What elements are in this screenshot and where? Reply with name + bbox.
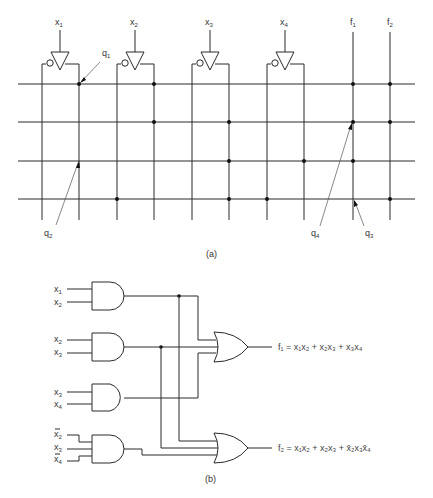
output-label-f2: f2 xyxy=(387,17,394,28)
annotation-q1: q1 xyxy=(80,48,111,83)
output-f1: f1 xyxy=(350,17,357,220)
caption-a: (a) xyxy=(206,249,217,259)
output-f2: f2 xyxy=(387,17,394,220)
buffer-icon xyxy=(51,52,69,70)
and-gate-icon xyxy=(92,384,120,411)
svg-text:q2: q2 xyxy=(44,228,53,239)
output-label-f1: f1 xyxy=(350,17,357,28)
and-gate-2: x2 x3 xyxy=(54,333,124,361)
or-gate-f2: f₂ = x₁x₂ + x₂x₃ + x̄₂x₃x̄₄ xyxy=(214,433,371,463)
input-x2: x2 xyxy=(117,17,154,220)
svg-text:x4: x4 xyxy=(54,399,63,410)
input-x4: x4 xyxy=(267,17,304,220)
svg-text:q3: q3 xyxy=(365,228,374,239)
buffer-icon xyxy=(126,52,144,70)
svg-text:x3: x3 xyxy=(54,347,63,358)
input-x1: x1 xyxy=(42,17,79,220)
inverter-bubble-icon xyxy=(197,60,203,66)
annotation-q3: q3 xyxy=(354,200,374,239)
svg-text:x2: x2 xyxy=(54,297,63,308)
equation-f2: f₂ = x₁x₂ + x₂x₃ + x̄₂x₃x̄₄ xyxy=(278,443,371,453)
and-gate-1: x1 x2 xyxy=(54,282,124,310)
and-gate-3: x3 x4 xyxy=(54,384,120,411)
input-label-x2: x2 xyxy=(130,17,139,28)
svg-text:x1: x1 xyxy=(54,284,63,295)
connection-dots xyxy=(77,82,392,201)
and-gate-icon xyxy=(92,333,124,361)
input-label-x1: x1 xyxy=(55,17,64,28)
svg-text:q1: q1 xyxy=(102,48,111,59)
and-gate-icon xyxy=(92,282,124,310)
equation-f1: f₁ = x₁x₂ + x₂x₃ + x₃x₄ xyxy=(278,342,363,352)
annotation-q4: q4 xyxy=(311,123,352,239)
pla-diagram: x1 x2 x3 xyxy=(0,0,433,498)
and-gate-icon xyxy=(92,435,124,463)
svg-text:x3: x3 xyxy=(54,387,63,398)
svg-text:x2: x2 xyxy=(54,429,63,440)
wiring xyxy=(124,294,218,455)
or-gate-f1: f₁ = x₁x₂ + x₂x₃ + x₃x₄ xyxy=(214,332,363,362)
figure-a-pla-grid: x1 x2 x3 xyxy=(18,17,415,259)
and-gate-4: x2 x3 x4 xyxy=(54,429,124,465)
or-gate-icon xyxy=(214,433,248,463)
buffer-icon xyxy=(201,52,219,70)
product-lines xyxy=(18,84,415,199)
svg-text:x2: x2 xyxy=(54,334,63,345)
inverter-bubble-icon xyxy=(47,60,53,66)
buffer-icon xyxy=(276,52,294,70)
svg-text:x4: x4 xyxy=(54,454,63,465)
input-label-x4: x4 xyxy=(280,17,289,28)
input-x3: x3 xyxy=(192,17,229,220)
caption-b: (b) xyxy=(205,474,216,484)
figure-b-gate-diagram: x1 x2 x2 x3 x3 x4 x2 x3 x4 xyxy=(54,282,371,484)
svg-text:x3: x3 xyxy=(54,442,63,453)
annotation-q2: q2 xyxy=(44,161,80,239)
inverter-bubble-icon xyxy=(122,60,128,66)
svg-text:q4: q4 xyxy=(311,228,320,239)
input-label-x3: x3 xyxy=(205,17,214,28)
inverter-bubble-icon xyxy=(272,60,278,66)
or-gate-icon xyxy=(214,332,248,362)
